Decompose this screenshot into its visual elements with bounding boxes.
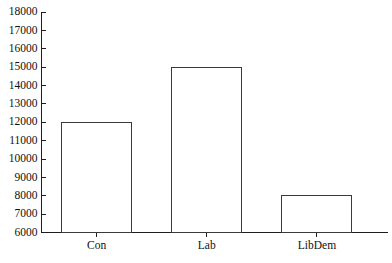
y-tick-label: 7000	[15, 207, 38, 219]
x-tick-label-con: Con	[87, 239, 106, 251]
bar-chart: 6000700080009000100001100012000130001400…	[0, 0, 392, 263]
chart-background	[0, 0, 392, 263]
y-tick-label: 12000	[9, 115, 38, 127]
y-tick-label: 14000	[9, 79, 38, 91]
y-tick-label: 8000	[15, 189, 38, 201]
chart-canvas: 6000700080009000100001100012000130001400…	[0, 0, 392, 263]
y-tick-label: 10000	[9, 152, 38, 164]
x-tick-label-lab: Lab	[198, 239, 216, 251]
y-tick-label: 11000	[9, 134, 38, 146]
y-tick-label: 9000	[15, 171, 38, 183]
y-tick-label: 13000	[9, 97, 38, 109]
y-tick-label: 6000	[15, 226, 38, 238]
y-tick-label: 17000	[9, 24, 38, 36]
y-tick-label: 18000	[9, 5, 38, 17]
y-tick-label: 15000	[9, 60, 38, 72]
x-tick-label-libdem: LibDem	[298, 239, 336, 251]
y-tick-label: 16000	[9, 42, 38, 54]
